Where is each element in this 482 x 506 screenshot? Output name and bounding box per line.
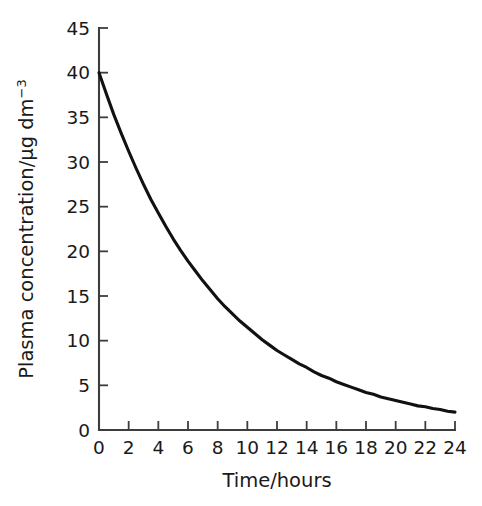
x-tick-label-14: 14	[295, 437, 319, 458]
y-tick-label-30: 30	[66, 152, 90, 173]
x-tick-label-16: 16	[325, 437, 349, 458]
y-tick-label-45: 45	[66, 18, 90, 39]
x-tick-label-4: 4	[152, 437, 164, 458]
data-curve-plasma-concentration	[99, 73, 455, 412]
x-tick-label-8: 8	[212, 437, 224, 458]
y-tick-label-35: 35	[66, 107, 90, 128]
x-tick-label-12: 12	[265, 437, 289, 458]
x-tick-label-24: 24	[443, 437, 467, 458]
axes-group	[99, 28, 455, 430]
y-axis-title-group: Plasma concentration/μg dm−3	[14, 79, 39, 379]
x-tick-label-6: 6	[182, 437, 194, 458]
y-tick-label-0: 0	[78, 420, 90, 441]
x-tick-label-0: 0	[93, 437, 105, 458]
y-tick-label-10: 10	[66, 330, 90, 351]
x-axis-ticks: 024681012141618202224	[93, 421, 467, 458]
y-axis-title: Plasma concentration/μg dm−3	[14, 79, 39, 379]
chart-canvas: 051015202530354045 024681012141618202224…	[0, 0, 482, 506]
y-tick-label-5: 5	[78, 375, 90, 396]
x-tick-label-10: 10	[236, 437, 260, 458]
y-tick-label-15: 15	[66, 286, 90, 307]
y-tick-label-20: 20	[66, 241, 90, 262]
x-tick-label-20: 20	[384, 437, 408, 458]
plasma-concentration-chart: 051015202530354045 024681012141618202224…	[0, 0, 482, 506]
x-axis-title: Time/hours	[221, 469, 331, 492]
x-tick-label-2: 2	[123, 437, 135, 458]
x-tick-label-22: 22	[414, 437, 438, 458]
y-tick-label-40: 40	[66, 62, 90, 83]
y-tick-label-25: 25	[66, 196, 90, 217]
x-tick-label-18: 18	[354, 437, 378, 458]
